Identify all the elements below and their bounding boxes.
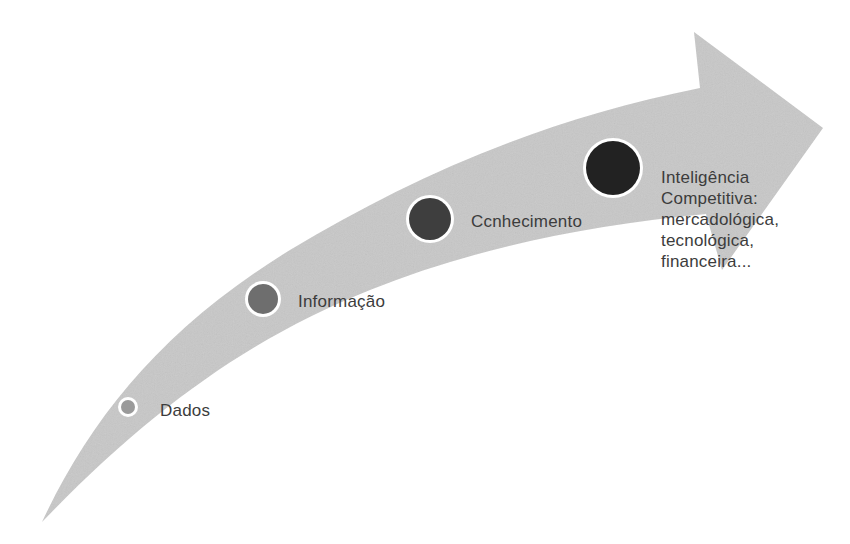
stage-label-conhecimento: Ccnhecimento bbox=[471, 211, 582, 232]
stage-label-inteligencia-competitiva: Inteligência Competitiva: mercadológica,… bbox=[661, 167, 779, 272]
final-line-4: tecnológica, bbox=[661, 230, 779, 251]
stage-label-dados: Dados bbox=[160, 400, 210, 421]
arrow-body bbox=[42, 32, 823, 522]
final-line-1: Inteligência bbox=[661, 167, 779, 188]
stage-label-informacao: Informação bbox=[298, 291, 385, 312]
stage-dot-informacao bbox=[248, 284, 278, 314]
stage-dot-dados bbox=[121, 400, 135, 414]
stage-dot-conhecimento bbox=[409, 198, 451, 240]
progression-arrow bbox=[0, 0, 850, 544]
final-line-3: mercadológica, bbox=[661, 209, 779, 230]
stage-dot-inteligencia-competitiva bbox=[586, 141, 640, 195]
final-line-2: Competitiva: bbox=[661, 188, 779, 209]
final-line-5: financeira... bbox=[661, 251, 779, 272]
